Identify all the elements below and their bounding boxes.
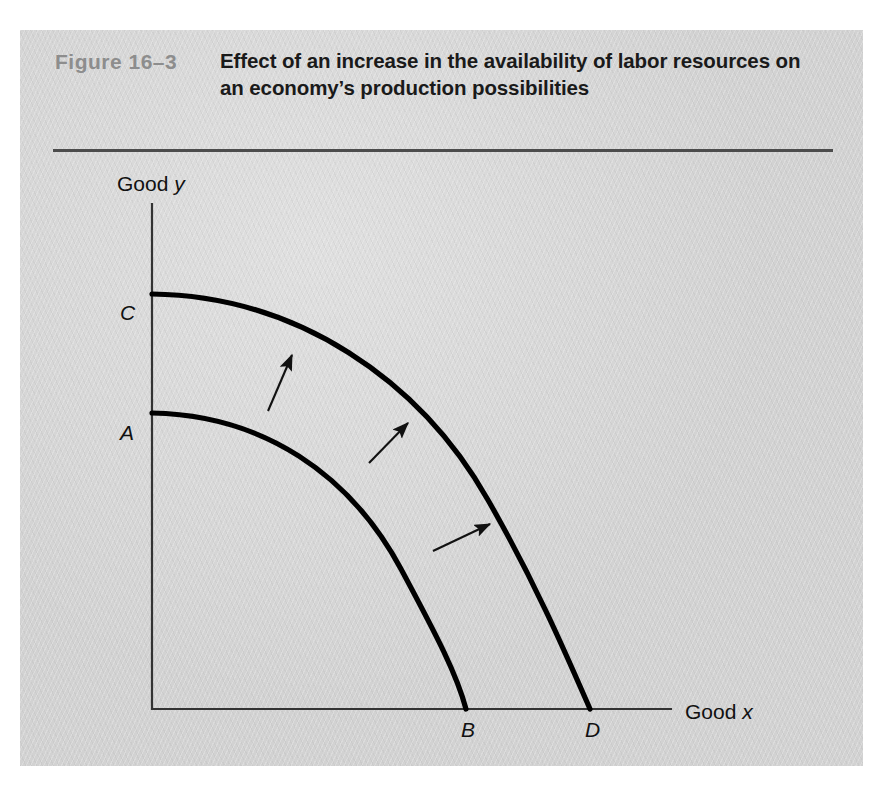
shift-arrow-2 (369, 423, 408, 463)
point-label-b: B (461, 718, 475, 742)
x-axis-title: Good x (685, 700, 753, 724)
y-axis-title: Good y (117, 172, 185, 196)
point-label-a: A (120, 421, 134, 445)
x-axis-title-variable: x (742, 700, 753, 723)
x-axis-title-prefix: Good (685, 700, 742, 723)
figure-panel: Figure 16–3 Effect of an increase in the… (20, 30, 863, 766)
shift-arrow-1 (268, 355, 292, 411)
shift-arrow-3 (433, 524, 490, 551)
ppf-curve-initial (152, 413, 466, 709)
plot-area: Good y Good x C A B D (20, 30, 863, 766)
point-label-d: D (585, 718, 600, 742)
point-label-c: C (120, 301, 135, 325)
figure-root: Figure 16–3 Effect of an increase in the… (0, 0, 883, 796)
y-axis-title-prefix: Good (117, 172, 174, 195)
ppf-chart-svg (20, 30, 863, 766)
ppf-curve-expanded (152, 294, 590, 709)
y-axis-title-variable: y (174, 172, 185, 195)
